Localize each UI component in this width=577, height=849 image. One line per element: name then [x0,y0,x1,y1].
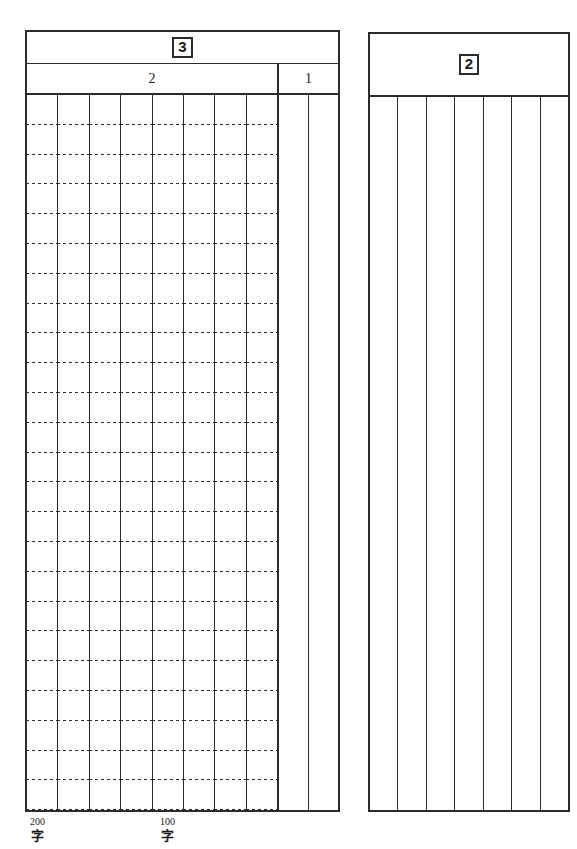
writing-column[interactable] [153,95,184,811]
right-sheet-writing-grid [370,97,568,810]
writing-column[interactable] [90,95,121,811]
question-number-badge-2: 2 [459,54,479,75]
left-sheet-subheader-row: 2 1 [27,64,338,95]
writing-column[interactable] [512,97,540,810]
subsection-header-2: 2 [27,64,279,93]
question-number-badge-3: 3 [172,37,192,58]
subsection-header-1: 1 [279,64,338,93]
writing-column[interactable] [184,95,215,811]
writing-column[interactable] [455,97,483,810]
writing-column[interactable] [541,97,568,810]
answer-sheet-left: 3 2 1 [25,30,340,812]
writing-column[interactable] [27,95,58,811]
count-unit-ji: 字 [30,828,45,844]
character-count-marker-200: 200 字 [30,815,45,844]
character-count-marker-100: 100 字 [160,815,175,844]
writing-column[interactable] [279,95,309,811]
writing-column[interactable] [427,97,455,810]
count-number: 200 [30,816,45,827]
right-sheet-title-band: 2 [370,34,568,97]
left-sheet-writing-grid [27,95,338,811]
writing-column[interactable] [215,95,246,811]
writing-column[interactable] [398,97,426,810]
writing-column-group-1 [279,95,338,811]
count-unit-ji: 字 [160,828,175,844]
writing-column[interactable] [58,95,89,811]
writing-column[interactable] [247,95,277,811]
writing-column[interactable] [370,97,398,810]
writing-column[interactable] [309,95,338,811]
writing-column-group-2 [27,95,279,811]
left-sheet-title-band: 3 [27,32,338,64]
writing-column-group [370,97,568,810]
writing-column[interactable] [121,95,152,811]
writing-column[interactable] [484,97,512,810]
answer-sheet-right: 2 [368,32,570,812]
count-number: 100 [160,816,175,827]
